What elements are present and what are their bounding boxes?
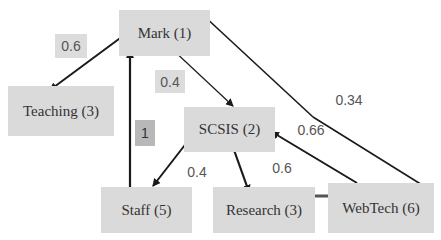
edge-webtech-mark [313,117,427,188]
node-label: WebTech (6) [342,200,419,217]
node-label: SCSIS (2) [199,121,260,138]
node-webtech[interactable]: WebTech (6) [328,183,434,233]
node-teaching[interactable]: Teaching (3) [8,86,114,136]
edge-webtech-mark-tail [203,15,313,117]
node-mark[interactable]: Mark (1) [119,10,210,56]
edge-scsis-research [234,150,249,192]
edge-label-scsis-research: 0.6 [268,157,296,179]
edge-label-webtech-scsis: 0.66 [293,119,329,141]
node-label: Mark (1) [138,25,192,42]
edge-label-mark-scsis: 0.4 [155,70,185,93]
node-staff[interactable]: Staff (5) [101,187,192,233]
node-scsis[interactable]: SCSIS (2) [184,107,275,152]
edge-label-staff-mark: 1 [135,120,155,146]
edge-label-webtech-mark: 0.34 [330,89,368,111]
node-label: Research (3) [226,202,302,219]
edge-label-scsis-staff: 0.4 [183,161,211,183]
node-label: Staff (5) [121,202,171,219]
edge-label-mark-teaching: 0.6 [55,34,87,58]
node-label: Teaching (3) [23,103,99,120]
node-research[interactable]: Research (3) [213,187,315,233]
